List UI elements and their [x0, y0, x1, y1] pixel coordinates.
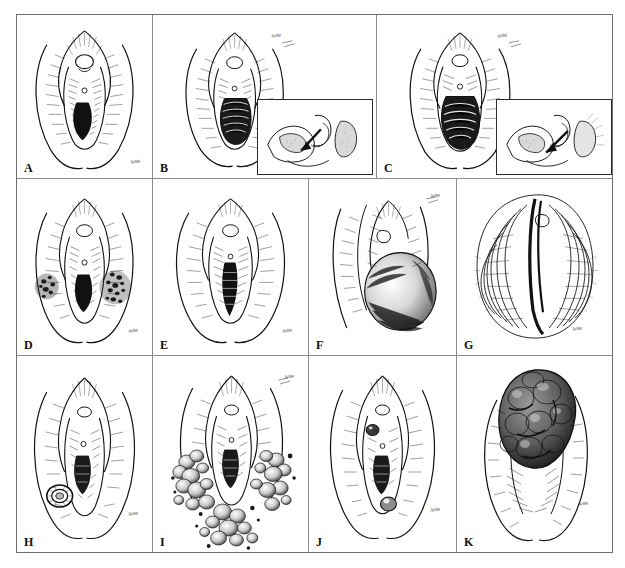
- panel-j: Artist J: [309, 356, 457, 552]
- panel-k-illustration: [457, 356, 612, 552]
- panel-label-e: E: [160, 339, 168, 351]
- figure-frame: Artist A: [16, 14, 613, 553]
- panel-label-h: H: [24, 536, 34, 548]
- panel-h: Artist H: [17, 356, 153, 552]
- panel-label-j: J: [316, 536, 322, 548]
- panel-label-a: A: [24, 162, 33, 174]
- panel-g: Artist G: [457, 179, 612, 356]
- panel-a-illustration: [17, 15, 152, 178]
- panel-f: Artist F: [309, 179, 457, 356]
- panel-h-illustration: [17, 356, 152, 552]
- panel-label-k: K: [464, 536, 474, 548]
- panel-i: Artist I: [153, 356, 309, 552]
- panel-label-f: F: [316, 339, 324, 351]
- panel-f-illustration: [309, 179, 456, 355]
- panel-k: Artist K: [457, 356, 612, 552]
- figure-plate: Artist A: [0, 0, 625, 568]
- panel-b: Artist: [153, 15, 377, 179]
- panel-a: Artist A: [17, 15, 153, 179]
- panel-j-illustration: [309, 356, 456, 552]
- panel-label-d: D: [24, 339, 33, 351]
- panel-label-g: G: [464, 339, 474, 351]
- panel-i-illustration: [153, 356, 308, 552]
- panel-d: Artist D: [17, 179, 153, 356]
- panel-e: Artist E: [153, 179, 309, 356]
- panel-c: Artist: [377, 15, 612, 179]
- panel-label-c: C: [384, 162, 393, 174]
- panel-label-b: B: [160, 162, 168, 174]
- panel-label-i: I: [160, 536, 165, 548]
- panel-g-illustration: [457, 179, 612, 355]
- panel-c-inset: [496, 99, 612, 175]
- panel-b-inset: [257, 99, 373, 175]
